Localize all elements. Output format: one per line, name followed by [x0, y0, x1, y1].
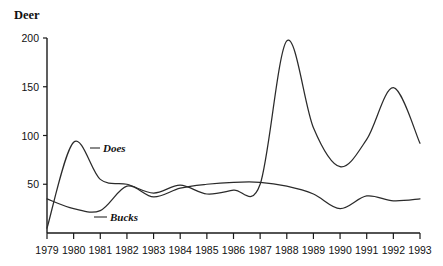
x-tick-label: 1988 — [275, 244, 299, 256]
x-tick-label: 1991 — [355, 244, 379, 256]
x-tick-label: 1985 — [195, 244, 219, 256]
x-tick-labels: 1979 1980 1981 1982 1983 1984 1985 1986 … — [35, 244, 432, 256]
series-line-does — [47, 40, 420, 228]
series-label-does: Does — [102, 142, 126, 154]
y-tick-label: 100 — [21, 130, 39, 142]
series-line-bucks — [47, 182, 420, 212]
x-tick-label: 1982 — [115, 244, 139, 256]
y-tick-label: 150 — [21, 81, 39, 93]
x-tick-label: 1990 — [328, 244, 352, 256]
annotation-bucks: Bucks — [94, 211, 138, 223]
y-tick-labels: 200 150 100 50 — [21, 32, 39, 190]
chart-canvas: Deer 200 150 100 50 — [0, 0, 443, 266]
x-tick-label: 1980 — [62, 244, 86, 256]
y-tick-label: 200 — [21, 32, 39, 44]
series-label-bucks: Bucks — [109, 211, 138, 223]
x-tick-label: 1992 — [382, 244, 406, 256]
annotation-does: Does — [90, 142, 126, 154]
page-title: Deer — [14, 8, 40, 22]
x-tick-label: 1987 — [248, 244, 272, 256]
x-tick-label: 1981 — [89, 244, 113, 256]
x-tick-marks — [47, 233, 420, 239]
x-tick-label: 1993 — [408, 244, 432, 256]
x-tick-label: 1986 — [222, 244, 246, 256]
y-tick-label: 50 — [27, 178, 39, 190]
x-tick-label: 1989 — [302, 244, 326, 256]
x-tick-label: 1983 — [142, 244, 166, 256]
x-tick-label: 1984 — [169, 244, 193, 256]
deer-population-chart: Deer 200 150 100 50 — [0, 0, 443, 266]
x-tick-label: 1979 — [35, 244, 59, 256]
